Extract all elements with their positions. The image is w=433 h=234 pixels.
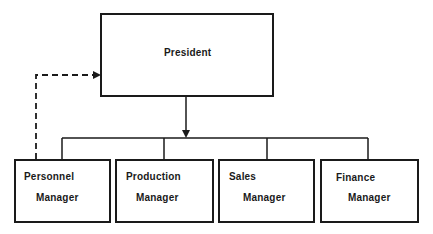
sales-manager-box: Sales Manager (218, 159, 315, 223)
president-box: President (100, 13, 274, 97)
finance-label: Finance (336, 172, 375, 183)
production-manager-box: Production Manager (115, 159, 214, 223)
production-manager-label: Manager (136, 192, 179, 203)
down-arrow-icon (182, 130, 190, 138)
personnel-manager-box: Personnel Manager (14, 159, 111, 223)
president-label: President (164, 47, 211, 58)
personnel-label: Personnel (24, 171, 74, 182)
production-label: Production (126, 171, 181, 182)
sales-manager-label: Manager (243, 192, 286, 203)
personnel-manager-label: Manager (36, 192, 79, 203)
sales-label: Sales (229, 171, 256, 182)
finance-manager-box: Finance Manager (320, 159, 419, 223)
dashed-staff-line (36, 75, 93, 159)
finance-manager-label: Manager (348, 192, 391, 203)
